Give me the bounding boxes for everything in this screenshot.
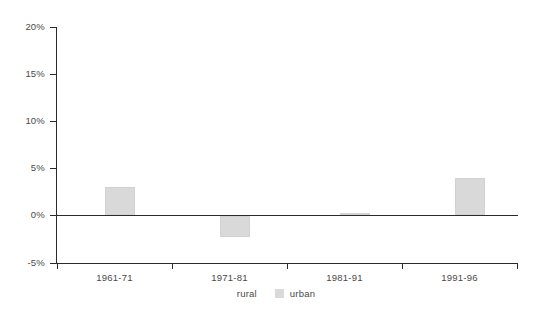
- legend-item-urban: urban: [275, 288, 315, 299]
- x-tick-label-1981-91: 1981-91: [287, 272, 402, 283]
- x-tick-label-1971-81: 1971-81: [172, 272, 287, 283]
- y-tick-label-5: 5%: [1, 163, 45, 173]
- bar-urban-1961-71: [105, 187, 135, 215]
- bar-urban-1971-81: [220, 216, 250, 237]
- bar-urban-1991-96: [455, 178, 485, 215]
- legend-swatch-rural-icon: [222, 289, 231, 298]
- x-axis-tick: [287, 263, 288, 269]
- x-axis-tick: [402, 263, 403, 269]
- y-tick-label-20: 20%: [1, 22, 45, 32]
- y-axis-line: [56, 27, 57, 264]
- legend-item-rural: rural: [222, 288, 257, 299]
- x-axis-tick: [172, 263, 173, 269]
- legend-label-rural: rural: [237, 288, 257, 299]
- chart-legend: rural urban: [0, 288, 537, 299]
- zero-baseline: [50, 215, 518, 216]
- x-axis-tick: [57, 263, 58, 269]
- y-tick-label-0: 0%: [1, 210, 45, 220]
- y-tick-label-10: 10%: [1, 116, 45, 126]
- y-tick-label-15: 15%: [1, 69, 45, 79]
- x-tick-label-1991-96: 1991-96: [402, 272, 517, 283]
- y-tick-label-neg5: -5%: [1, 258, 45, 268]
- x-tick-label-1961-71: 1961-71: [57, 272, 172, 283]
- legend-swatch-urban-icon: [275, 289, 284, 298]
- legend-label-urban: urban: [290, 288, 315, 299]
- x-axis-tick: [517, 263, 518, 269]
- chart-container: 20% 15% 10% 5% 0% -5% 1961-71 1971-81 19…: [0, 0, 537, 318]
